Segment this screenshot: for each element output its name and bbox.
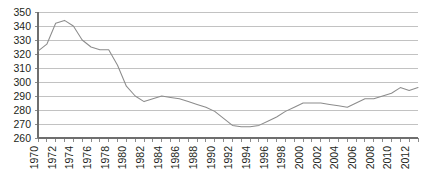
- x-tick-label: 1992: [222, 146, 234, 170]
- data-series: [38, 20, 418, 126]
- y-tick-label: 310: [13, 62, 31, 74]
- y-tick-label: 350: [13, 6, 31, 18]
- chart-canvas: 260270280290300310320330340350 197019721…: [0, 0, 432, 187]
- x-tick-label: 2002: [311, 146, 323, 170]
- y-tick-label: 340: [13, 20, 31, 32]
- x-tick-label: 1984: [152, 146, 164, 170]
- x-tick-label: 2012: [399, 146, 411, 170]
- x-tick-label: 1976: [81, 146, 93, 170]
- y-tick-label: 270: [13, 118, 31, 130]
- line-chart: 260270280290300310320330340350 197019721…: [0, 0, 432, 187]
- gridlines: [38, 12, 418, 138]
- x-tick-label: 1974: [63, 146, 75, 170]
- x-tick-label: 2006: [346, 146, 358, 170]
- y-tick-label: 280: [13, 104, 31, 116]
- x-tick-label: 1980: [116, 146, 128, 170]
- x-tick-label: 1996: [258, 146, 270, 170]
- x-tick-label: 2004: [328, 146, 340, 170]
- x-tick-label: 1970: [28, 146, 40, 170]
- x-tick-label: 1990: [205, 146, 217, 170]
- y-tick-label: 300: [13, 76, 31, 88]
- x-tick-label: 1998: [275, 146, 287, 170]
- y-tick-label: 260: [13, 132, 31, 144]
- x-tick-label: 1972: [46, 146, 58, 170]
- x-tick-label: 1994: [240, 146, 252, 170]
- x-tick-label: 1982: [134, 146, 146, 170]
- x-tick-label: 2010: [381, 146, 393, 170]
- y-tick-label: 320: [13, 48, 31, 60]
- x-tick-label: 2000: [293, 146, 305, 170]
- x-tick-label: 1978: [99, 146, 111, 170]
- x-axis: 1970197219741976197819801982198419861988…: [28, 138, 418, 169]
- series-line-series-1: [38, 20, 418, 126]
- y-axis: 260270280290300310320330340350: [13, 6, 38, 144]
- y-tick-label: 330: [13, 34, 31, 46]
- x-tick-label: 1988: [187, 146, 199, 170]
- x-tick-label: 1986: [169, 146, 181, 170]
- x-tick-label: 2008: [364, 146, 376, 170]
- y-tick-label: 290: [13, 90, 31, 102]
